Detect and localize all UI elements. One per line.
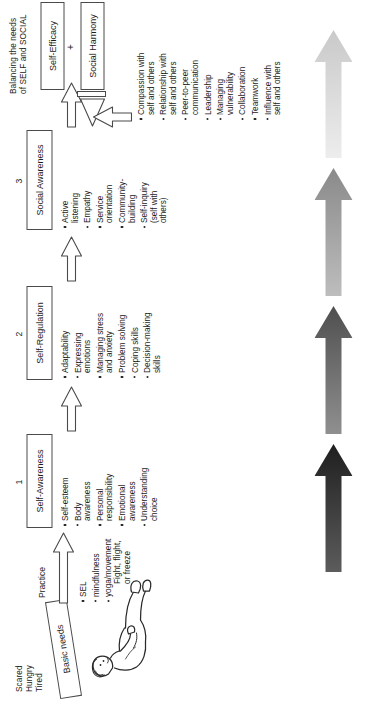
list-item-label: Leadership	[203, 75, 213, 116]
practice-item-list: SEL mindfulness yoga/movement	[78, 540, 116, 602]
bullet-dot	[266, 118, 268, 120]
list-item: Managing vulnerability	[215, 16, 234, 120]
plus-sign: +	[64, 4, 75, 90]
bullet-dot	[219, 118, 221, 120]
bullet-dot	[63, 226, 65, 228]
bullet-dot	[76, 524, 78, 526]
self-efficacy-label: Self-Efficacy	[47, 21, 57, 71]
list-item: mindfulness	[91, 540, 101, 602]
bullet-dot	[184, 118, 186, 120]
list-item-label: Active listening	[60, 193, 79, 223]
list-item-label: Influence with self and others	[263, 61, 282, 115]
progress-arrow-2	[314, 306, 352, 434]
baseline-states-label: Scared Hungry Tired	[14, 622, 45, 692]
list-item: Empathy	[82, 136, 92, 228]
bullet-dot	[107, 600, 109, 602]
basic-needs-box: Basic needs	[44, 599, 81, 699]
stage-3-box: Social Awareness	[26, 130, 52, 230]
list-item-label: Collaboration	[237, 67, 247, 115]
stage-1-number: 1	[13, 436, 23, 528]
progress-arrow-4	[314, 30, 352, 158]
list-item-label: Community- building	[117, 179, 136, 223]
list-item: Understanding choice	[139, 440, 158, 526]
bullet-dot	[120, 226, 122, 228]
list-item-label: Problem solving	[117, 315, 127, 373]
social-harmony-box: Social Harmony	[80, 2, 104, 90]
bullet-dot	[76, 376, 78, 378]
bullet-dot	[63, 376, 65, 378]
list-item: Influence with self and others	[263, 16, 282, 120]
bullet-dot	[98, 524, 100, 526]
list-item: Emotional awareness	[117, 440, 136, 526]
list-item-label: Understanding choice	[139, 468, 158, 521]
list-item-label: Expressing emotions	[73, 333, 92, 374]
list-item: Adaptability	[60, 288, 70, 378]
stage-2-title: Self-Regulation	[34, 302, 44, 364]
stage-2-item-list: Adaptability Expressing emotions Managin…	[60, 288, 164, 378]
stage-1-item-list: Self-esteem Body awareness Personal resp…	[60, 440, 161, 526]
list-item-label: Relationship with self and others	[158, 53, 177, 115]
harmony-bracket	[76, 90, 110, 98]
bullet-dot	[143, 226, 145, 228]
stage-1-box: Self-Awareness	[26, 434, 52, 528]
bullet-dot	[241, 118, 243, 120]
self-efficacy-box: Self-Efficacy	[40, 2, 64, 90]
list-item-label: Peer-to-peer communication	[180, 60, 199, 115]
stage-3-number: 3	[13, 132, 23, 230]
list-item-label: Self-esteem	[60, 477, 70, 521]
list-item: Active listening	[60, 136, 79, 228]
list-item: Relationship with self and others	[158, 16, 177, 120]
list-item: Body awareness	[73, 440, 92, 526]
basic-needs-label: Basic needs	[54, 624, 72, 674]
bullet-dot	[206, 118, 208, 120]
stage-2-number: 2	[13, 288, 23, 380]
bullet-dot	[162, 118, 164, 120]
stage-2-to-3-arrow-icon	[60, 236, 82, 282]
progress-arrow-3	[314, 168, 352, 296]
social-harmony-label: Social Harmony	[87, 14, 97, 78]
stage-3-item-list: Active listening Empathy Service orienta…	[60, 136, 171, 228]
list-item-label: Compassion with self and others	[136, 53, 155, 115]
stage-3-title: Social Awareness	[34, 145, 44, 216]
stage-2-box: Self-Regulation	[26, 286, 52, 380]
list-item-label: yoga/movement	[103, 539, 113, 597]
list-item: Coping skills	[130, 288, 140, 378]
list-item-label: Body awareness	[73, 481, 92, 521]
list-item-label: SEL	[78, 582, 88, 597]
bullet-dot	[120, 524, 122, 526]
list-item-label: Emotional awareness	[117, 481, 136, 521]
bullet-dot	[98, 226, 100, 228]
list-item-label: Teamwork	[250, 78, 260, 115]
list-item-label: Personal responsibility	[95, 474, 114, 521]
list-item-label: Adaptability	[60, 331, 70, 373]
bullet-dot	[139, 118, 141, 120]
list-item: Self-inquiry (self with others)	[139, 136, 168, 228]
list-item: Decision-making skills	[142, 288, 161, 378]
list-item-label: Coping skills	[130, 327, 140, 373]
list-item: Self-esteem	[60, 440, 70, 526]
list-item-label: Managing vulnerability	[215, 72, 234, 115]
progress-arrow-1	[314, 444, 352, 572]
list-item-label: mindfulness	[91, 553, 101, 597]
list-item-label: Managing stress and anxiety	[95, 313, 114, 373]
list-item: Managing stress and anxiety	[95, 288, 114, 378]
list-item: yoga/movement	[103, 540, 113, 602]
bullet-dot	[94, 600, 96, 602]
list-item: Problem solving	[117, 288, 127, 378]
list-item: Community- building	[117, 136, 136, 228]
list-item: Service orientation	[95, 136, 114, 228]
bullet-dot	[143, 524, 145, 526]
bullet-dot	[63, 524, 65, 526]
bullet-dot	[120, 376, 122, 378]
list-item: Collaboration	[237, 16, 247, 120]
bullet-dot	[86, 226, 88, 228]
list-item-label: Self-inquiry (self with others)	[139, 182, 168, 223]
bullet-dot	[133, 376, 135, 378]
list-item: Peer-to-peer communication	[180, 16, 199, 120]
diagram-canvas: Scared Hungry Tired Basic needs	[0, 0, 379, 706]
list-item: Expressing emotions	[73, 288, 92, 378]
list-item: Teamwork	[250, 16, 260, 120]
list-item-label: Empathy	[82, 191, 92, 223]
stage-1-title: Self-Awareness	[34, 450, 44, 513]
bullet-dot	[98, 376, 100, 378]
